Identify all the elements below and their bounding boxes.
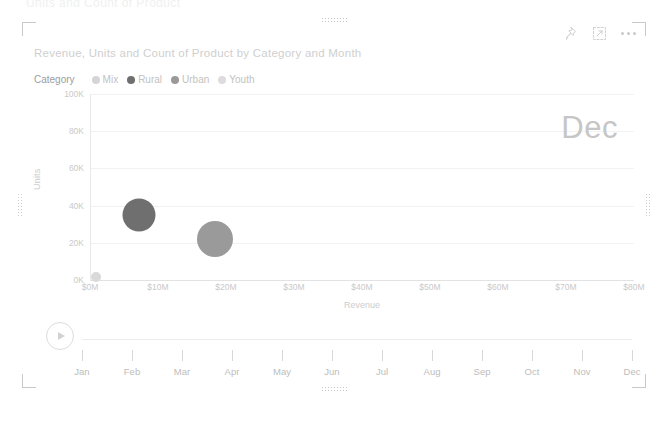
x-tick-label: $80M — [623, 282, 644, 292]
timeline-month-dec[interactable]: Dec — [624, 366, 641, 377]
report-visual-tile[interactable]: Revenue, Units and Count of Product by C… — [22, 22, 646, 388]
x-tick-label: $50M — [419, 282, 440, 292]
x-tick-label: $60M — [487, 282, 508, 292]
legend-label-youth: Youth — [229, 74, 254, 85]
y-tick-label: 100K — [64, 89, 84, 99]
timeline-month-mar[interactable]: Mar — [174, 366, 190, 377]
timeline-month-oct[interactable]: Oct — [525, 366, 540, 377]
y-tick-label: 60K — [69, 163, 84, 173]
timeline-month-aug[interactable]: Aug — [424, 366, 441, 377]
legend-label-urban: Urban — [182, 74, 209, 85]
resize-handle-bottom[interactable] — [321, 386, 347, 393]
x-tick-label: $70M — [555, 282, 576, 292]
bubble-urban[interactable] — [197, 221, 233, 257]
timeline-month-jul[interactable]: Jul — [376, 366, 388, 377]
timeline-month-jan[interactable]: Jan — [74, 366, 89, 377]
timeline-month-labels[interactable]: JanFebMarAprMayJunJulAugSepOctNovDec — [82, 366, 632, 380]
scatter-chart[interactable]: Units 0K20K40K60K80K100K Dec $0M$10M$20M… — [34, 94, 634, 322]
timeline-tick[interactable] — [282, 350, 283, 361]
timeline-month-feb[interactable]: Feb — [124, 366, 140, 377]
timeline-tick[interactable] — [632, 350, 633, 361]
legend-item-youth[interactable]: Youth — [218, 74, 254, 85]
timeline-month-may[interactable]: May — [273, 366, 291, 377]
timeline-month-nov[interactable]: Nov — [574, 366, 591, 377]
resize-handle-right[interactable] — [645, 193, 651, 217]
y-axis-tick-labels: 0K20K40K60K80K100K — [48, 94, 84, 280]
play-icon — [58, 332, 65, 340]
selection-corner-top-left — [22, 22, 36, 36]
bubble-rural[interactable] — [122, 198, 155, 231]
legend-swatch-rural — [127, 76, 135, 84]
play-button[interactable] — [46, 322, 74, 350]
timeline-tick[interactable] — [132, 350, 133, 361]
clipped-top-text: Units and Count of Product — [26, 0, 180, 10]
timeline-month-sep[interactable]: Sep — [474, 366, 491, 377]
legend-label-rural: Rural — [138, 74, 162, 85]
timeline-tick[interactable] — [232, 350, 233, 361]
legend: Category Mix Rural Urban Youth — [34, 74, 255, 85]
x-tick-label: $40M — [351, 282, 372, 292]
y-tick-label: 20K — [69, 238, 84, 248]
x-tick-label: $20M — [215, 282, 236, 292]
focus-mode-icon[interactable] — [591, 25, 608, 42]
x-axis-tick-labels: $0M$10M$20M$30M$40M$50M$60M$70M$80M — [90, 282, 634, 296]
x-axis-title: Revenue — [90, 300, 634, 310]
legend-swatch-youth — [218, 76, 226, 84]
legend-swatch-mix — [92, 76, 100, 84]
current-month-watermark: Dec — [561, 110, 618, 146]
plot-area[interactable] — [90, 94, 634, 281]
timeline-tick[interactable] — [582, 350, 583, 361]
gridline — [91, 94, 634, 95]
timeline-ticks — [82, 350, 632, 362]
gridline — [91, 131, 634, 132]
timeline-tick[interactable] — [82, 350, 83, 361]
y-tick-label: 40K — [69, 201, 84, 211]
play-axis-timeline[interactable]: JanFebMarAprMayJunJulAugSepOctNovDec — [34, 320, 634, 382]
legend-title: Category — [34, 74, 75, 85]
x-tick-label: $30M — [283, 282, 304, 292]
x-tick-label: $10M — [147, 282, 168, 292]
timeline-tick[interactable] — [482, 350, 483, 361]
gridline — [91, 206, 634, 207]
legend-swatch-urban — [171, 76, 179, 84]
timeline-tick[interactable] — [432, 350, 433, 361]
legend-item-rural[interactable]: Rural — [127, 74, 162, 85]
bubble-mix[interactable] — [91, 272, 101, 282]
tile-action-bar — [561, 25, 636, 42]
timeline-tick[interactable] — [532, 350, 533, 361]
timeline-tick[interactable] — [332, 350, 333, 361]
x-tick-label: $0M — [82, 282, 99, 292]
y-axis-title: Units — [32, 168, 42, 190]
timeline-month-apr[interactable]: Apr — [225, 366, 240, 377]
legend-item-mix[interactable]: Mix — [92, 74, 119, 85]
resize-handle-top[interactable] — [321, 17, 347, 24]
visual-title: Revenue, Units and Count of Product by C… — [34, 47, 362, 59]
gridline — [91, 168, 634, 169]
timeline-month-jun[interactable]: Jun — [324, 366, 339, 377]
gridline — [91, 243, 634, 244]
resize-handle-left[interactable] — [17, 193, 23, 217]
legend-item-urban[interactable]: Urban — [171, 74, 209, 85]
timeline-track[interactable] — [82, 339, 632, 340]
more-options-icon[interactable] — [621, 25, 636, 42]
y-tick-label: 80K — [69, 126, 84, 136]
timeline-tick[interactable] — [182, 350, 183, 361]
timeline-tick[interactable] — [382, 350, 383, 361]
legend-label-mix: Mix — [103, 74, 119, 85]
pin-icon[interactable] — [561, 25, 578, 42]
